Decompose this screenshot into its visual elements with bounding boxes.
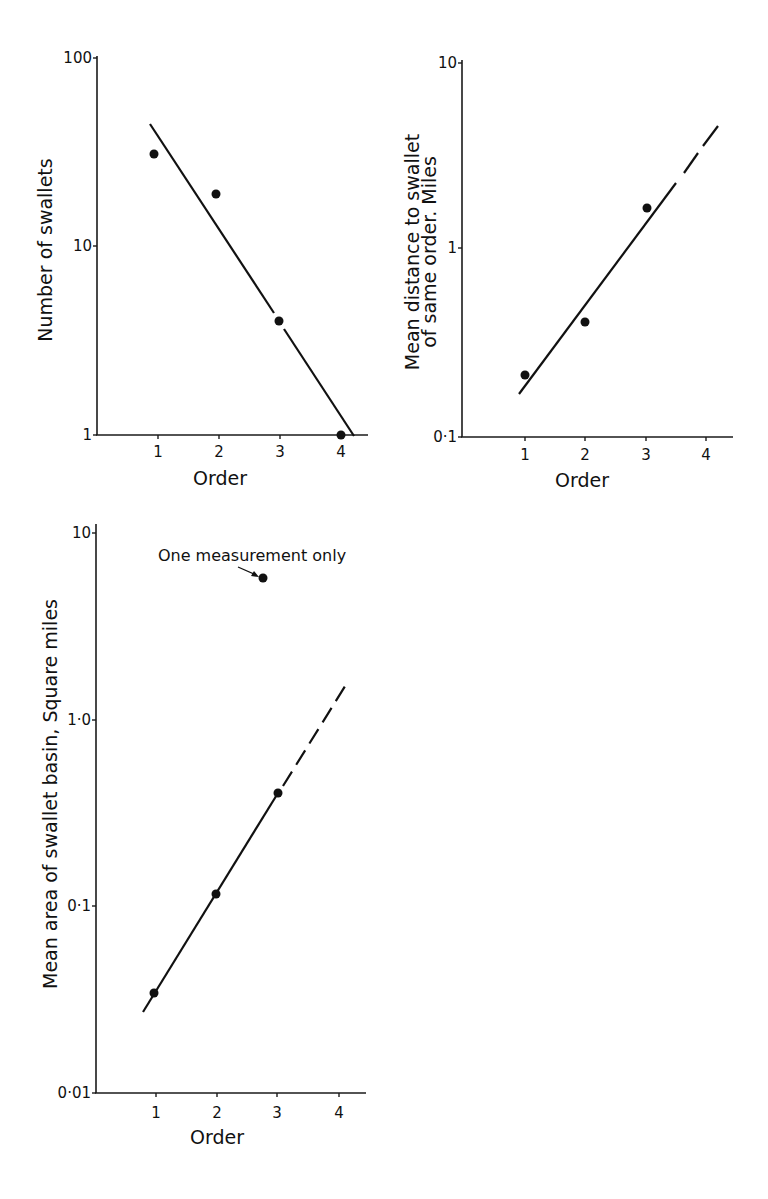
data-point: [150, 989, 159, 998]
x-tick-label: 4: [336, 443, 346, 461]
y-axis-label-line-2: of same order. Miles: [418, 156, 440, 348]
data-point: [643, 204, 652, 213]
x-axis-label: Order: [190, 1126, 244, 1148]
x-tick-label: 2: [214, 443, 224, 461]
x-tick-label: 3: [272, 1104, 282, 1122]
panel-swallet-basin-area: 10 1·0 0·1 0·01 1 2 3 4 Order Mean area …: [39, 524, 366, 1148]
x-tick-label: 4: [334, 1104, 344, 1122]
fit-line: [150, 124, 274, 313]
x-tick-label: 1: [151, 1104, 161, 1122]
x-tick-label: 1: [520, 446, 530, 464]
data-point: [337, 431, 346, 440]
x-tick-label: 3: [275, 443, 285, 461]
outlier-data-point: [259, 574, 268, 583]
data-point: [212, 890, 221, 899]
fit-line-extrapolation: [684, 153, 698, 173]
data-point: [150, 150, 159, 159]
y-tick-label: 0·1: [67, 897, 91, 915]
fit-line: [143, 793, 278, 1012]
y-tick-label: 0·01: [58, 1084, 91, 1102]
y-axis-label: Mean area of swallet basin, Square miles: [39, 599, 61, 989]
y-tick-label: 10: [438, 54, 457, 72]
y-tick-label: 10: [73, 237, 92, 255]
fit-line-extrapolation: [703, 126, 718, 146]
y-tick-label: 10: [72, 524, 91, 542]
y-tick-label: 1·0: [67, 711, 91, 729]
y-tick-label: 1: [82, 426, 92, 444]
y-axis-label: Number of swallets: [34, 158, 56, 341]
y-tick-label: 1: [447, 239, 457, 257]
fit-line: [519, 183, 676, 394]
data-point: [274, 789, 283, 798]
y-tick-label: 0·1: [433, 428, 457, 446]
y-tick-label: 100: [63, 49, 92, 67]
panel-swallet-distance: 10 1 0·1 1 2 3 4 Order Mean distance to …: [401, 54, 733, 491]
outlier-annotation: One measurement only: [158, 546, 346, 565]
panel-swallet-count: 100 10 1 1 2 3 4 Order Number of swallet…: [34, 49, 368, 489]
x-tick-label: 2: [580, 446, 590, 464]
x-tick-label: 2: [212, 1104, 222, 1122]
data-point: [521, 371, 530, 380]
fit-line: [284, 329, 354, 436]
data-point: [212, 190, 221, 199]
data-point: [275, 317, 284, 326]
figure: 100 10 1 1 2 3 4 Order Number of swallet…: [0, 0, 768, 1199]
data-point: [581, 318, 590, 327]
x-axis-label: Order: [193, 467, 247, 489]
fit-line-extrapolation: [283, 683, 347, 786]
x-tick-label: 1: [153, 443, 163, 461]
x-tick-label: 3: [641, 446, 651, 464]
x-tick-label: 4: [701, 446, 711, 464]
x-axis-label: Order: [555, 469, 609, 491]
